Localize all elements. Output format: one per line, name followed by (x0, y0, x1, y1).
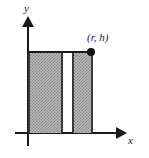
right-shaded-rect (72, 53, 93, 133)
rectangle-top-edge (28, 51, 92, 53)
left-shaded-rect (28, 53, 63, 133)
figure-canvas: x y (r, h) (0, 0, 149, 158)
y-axis-label: y (24, 3, 29, 14)
filled-dot-icon (87, 48, 95, 56)
up-arrow-icon (22, 16, 34, 27)
corner-point-label: (r, h) (87, 32, 108, 43)
x-axis-label: x (128, 135, 133, 146)
right-arrow-icon (116, 127, 127, 139)
